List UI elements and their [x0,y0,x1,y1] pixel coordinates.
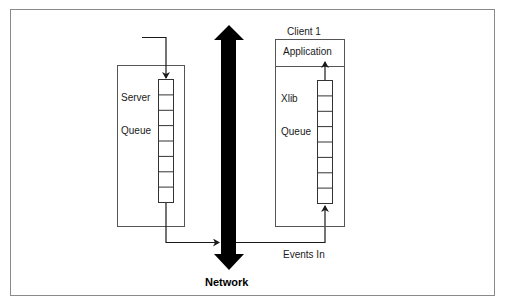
diagram-canvas [0,0,505,307]
network-double-arrow [214,25,244,270]
server-label-line1: Server [121,92,151,103]
xlib-label-line2: Queue [281,126,311,137]
network-label: Network [205,277,248,288]
xlib-queue-label: Xlib Queue [281,71,311,148]
xlib-queue [318,81,333,204]
server-to-network-arrow [166,203,219,243]
events-in-arrow [236,206,325,243]
events-in-label: Events In [283,249,325,260]
server-queue [159,80,174,203]
xlib-label-line1: Xlib [281,93,311,104]
server-label-line2: Queue [121,125,151,136]
server-label: Server Queue [121,70,151,147]
application-label: Application [283,46,332,57]
client-title: Client 1 [287,26,321,37]
